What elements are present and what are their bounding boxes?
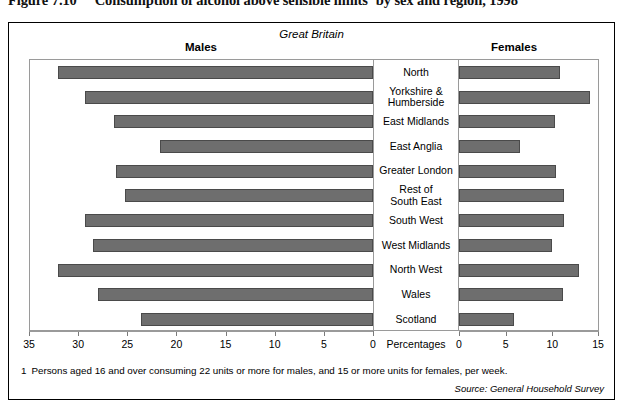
female-bar-row [459, 282, 598, 307]
female-bar-row [459, 208, 598, 233]
bar-female [459, 288, 563, 301]
region-label: Greater London [374, 159, 458, 184]
bar-female [459, 91, 590, 104]
region-scope-label: Great Britain [9, 28, 614, 40]
region-row: Yorkshire & Humberside [374, 85, 458, 110]
axis-tick-label: 5 [309, 338, 339, 350]
region-label: South West [374, 208, 458, 233]
bar-female [459, 313, 514, 326]
axis-baseline [459, 331, 599, 332]
male-bar-row [30, 307, 373, 332]
male-bar-row [30, 258, 373, 283]
male-bar-row [30, 184, 373, 209]
axis-tick-label: 20 [161, 338, 191, 350]
bar-female [459, 239, 552, 252]
figure-title-text: Consumption of alcohol above sensible li… [95, 0, 368, 8]
plot-area: NorthYorkshire & HumbersideEast Midlands… [29, 59, 599, 331]
female-bar-row [459, 60, 598, 85]
axis-tick-label: 0 [444, 338, 474, 350]
male-bar-row [30, 109, 373, 134]
male-bar-row [30, 134, 373, 159]
male-bar-row [30, 208, 373, 233]
bar-male [58, 66, 373, 79]
source-note: Source: General Household Survey [455, 383, 604, 394]
bar-male [160, 140, 373, 153]
region-label-panel: NorthYorkshire & HumbersideEast Midlands… [373, 59, 459, 331]
region-label: North [374, 60, 458, 85]
region-row: North West [374, 258, 458, 283]
footnote-marker: 1 [21, 365, 26, 376]
female-bar-row [459, 258, 598, 283]
male-rows [30, 60, 373, 330]
axis-tick-label: 35 [14, 338, 44, 350]
bar-male [98, 288, 373, 301]
region-label: West Midlands [374, 233, 458, 258]
chart-frame: Great Britain Males Females NorthYorkshi… [8, 22, 615, 400]
axis-tick-label: 0 [358, 338, 388, 350]
bar-female [459, 264, 579, 277]
male-bar-row [30, 60, 373, 85]
region-label: Scotland [374, 307, 458, 332]
series-label-females: Females [491, 41, 537, 53]
region-row: Greater London [374, 159, 458, 184]
bar-female [459, 115, 555, 128]
region-row: West Midlands [374, 233, 458, 258]
region-row: Wales [374, 282, 458, 307]
female-bar-row [459, 159, 598, 184]
female-bar-row [459, 85, 598, 110]
bar-female [459, 66, 560, 79]
bar-male [116, 165, 373, 178]
female-bars-panel [459, 59, 599, 331]
region-row: South West [374, 208, 458, 233]
axis-tick-label: 5 [491, 338, 521, 350]
region-row: East Anglia [374, 134, 458, 159]
region-label: Yorkshire & Humberside [374, 85, 458, 110]
bar-male [141, 313, 373, 326]
axis-tick-label: 10 [260, 338, 290, 350]
axis-tick-label: 15 [583, 338, 613, 350]
x-axis: Percentages 35302520151050051015 [29, 331, 599, 357]
male-bars-panel [29, 59, 373, 331]
bar-female [459, 140, 520, 153]
bar-male [125, 189, 373, 202]
series-label-males: Males [185, 41, 217, 53]
bar-male [114, 115, 373, 128]
bar-male [93, 239, 373, 252]
female-bar-row [459, 109, 598, 134]
male-bar-row [30, 85, 373, 110]
region-label: Wales [374, 282, 458, 307]
region-label-rows: NorthYorkshire & HumbersideEast Midlands… [374, 60, 458, 330]
region-label: North West [374, 258, 458, 283]
bar-female [459, 214, 564, 227]
axis-baseline [29, 331, 373, 332]
bar-male [85, 91, 373, 104]
region-label: East Midlands [374, 109, 458, 134]
footnote-text: Persons aged 16 and over consuming 22 un… [31, 365, 507, 376]
footnote: 1Persons aged 16 and over consuming 22 u… [21, 365, 507, 376]
female-bar-row [459, 184, 598, 209]
axis-tick-label: 15 [211, 338, 241, 350]
chart-header: Great Britain Males Females [9, 23, 614, 57]
region-label: Rest of South East [374, 184, 458, 209]
region-row: Scotland [374, 307, 458, 332]
bar-male [85, 214, 373, 227]
bar-male [58, 264, 373, 277]
page-title: Figure 7.10Consumption of alcohol above … [8, 0, 620, 9]
bar-female [459, 189, 564, 202]
region-label: East Anglia [374, 134, 458, 159]
female-bar-row [459, 233, 598, 258]
female-bar-row [459, 307, 598, 332]
region-row: Rest of South East [374, 184, 458, 209]
figure-number: Figure 7.10 [8, 0, 77, 8]
region-row: East Midlands [374, 109, 458, 134]
axis-tick-label: 25 [112, 338, 142, 350]
axis-tick-label: 10 [537, 338, 567, 350]
bar-female [459, 165, 556, 178]
female-rows [459, 60, 598, 330]
female-bar-row [459, 134, 598, 159]
region-row: North [374, 60, 458, 85]
axis-tick-label: 30 [63, 338, 93, 350]
figure-title-tail: by sex and region, 1998 [372, 0, 518, 8]
male-bar-row [30, 233, 373, 258]
male-bar-row [30, 282, 373, 307]
